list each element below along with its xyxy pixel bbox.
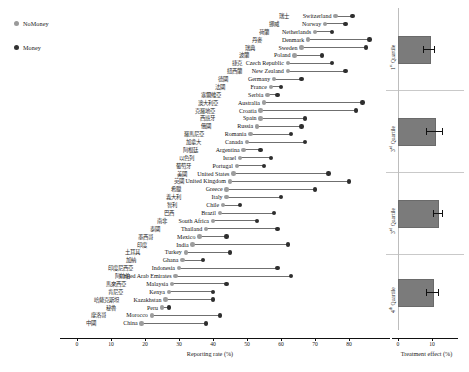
- country-label-cn: 加拿大: [186, 138, 201, 146]
- data-point-money: [326, 171, 330, 175]
- error-bar-cap: [433, 210, 434, 217]
- country-label-en: United States: [197, 170, 229, 178]
- right-x-tick-label: 0: [390, 341, 406, 347]
- error-bar: [426, 131, 442, 132]
- country-label-en: United Arab Emirates: [119, 272, 171, 280]
- country-row: 希臘Greece: [0, 185, 384, 193]
- country-label-en: Thailand: [181, 225, 202, 233]
- country-row: 智利Chile: [0, 201, 384, 209]
- data-point-money: [262, 164, 266, 168]
- country-row: 塞爾維亞Serbia: [0, 91, 384, 99]
- country-label-en: Kazakhstan: [133, 296, 161, 304]
- x-tick-label: 30: [171, 341, 187, 347]
- country-label-en: India: [176, 241, 188, 249]
- country-row: 肯尼亞Kenya: [0, 288, 384, 296]
- data-point-nomoney: [241, 148, 245, 152]
- quartile-axis-label: 4th Quartile: [388, 287, 396, 313]
- connector-line: [172, 283, 226, 284]
- country-label-cn: 巴西: [164, 209, 174, 217]
- country-label-cn: 西班牙: [200, 114, 215, 122]
- country-label-cn: 捷克: [232, 59, 242, 67]
- country-label-cn: 加納: [126, 256, 136, 264]
- error-bar: [423, 49, 434, 50]
- data-point-nomoney: [306, 37, 310, 41]
- country-label-cn: 塞爾維亞: [201, 91, 221, 99]
- country-label-en: Switzerland: [303, 12, 332, 20]
- country-row: 挪威Norway: [0, 20, 384, 28]
- country-row: 義大利Italy: [0, 193, 384, 201]
- country-row: 印度尼西亞Indonesia: [0, 264, 384, 272]
- quartile-axis-label: 1st Quartile: [388, 45, 396, 70]
- country-label-en: Turkey: [165, 248, 182, 256]
- connector-line: [169, 291, 213, 292]
- data-point-money: [201, 258, 205, 262]
- country-row: 以色列Israel: [0, 154, 384, 162]
- x-tick-label: 0: [69, 341, 85, 347]
- country-label-en: Portugal: [212, 162, 232, 170]
- country-row: 阿拉伯United Arab Emirates: [0, 272, 384, 280]
- x-tick-label: 50: [239, 341, 255, 347]
- country-label-en: Croatia: [239, 107, 257, 115]
- country-row: 德國Germany: [0, 75, 384, 83]
- country-label-en: Denmark: [282, 36, 304, 44]
- connector-line: [308, 39, 369, 40]
- country-row: 法國France: [0, 83, 384, 91]
- country-row: 克羅地亞Croatia: [0, 107, 384, 115]
- country-label-cn: 瑞士: [279, 12, 289, 20]
- data-point-nomoney: [204, 227, 208, 231]
- country-label-en: Sweden: [278, 44, 297, 52]
- data-point-money: [330, 61, 334, 65]
- country-label-cn: 智利: [167, 201, 177, 209]
- country-label-cn: 克羅地亞: [195, 107, 215, 115]
- country-label-en: New Zealand: [252, 67, 284, 75]
- data-point-money: [224, 282, 228, 286]
- country-label-en: Serbia: [248, 91, 263, 99]
- data-point-nomoney: [269, 85, 273, 89]
- data-point-nomoney: [323, 22, 327, 26]
- treatment-effect-panel: 1st Quartile3rd Quartile3rd Quartile4th …: [384, 0, 469, 372]
- data-point-money: [303, 116, 307, 120]
- country-label-en: United Kingdom: [186, 177, 227, 185]
- connector-line: [165, 299, 213, 300]
- country-label-cn: 波蘭: [239, 51, 249, 59]
- country-row: 摩洛哥Morocco: [0, 311, 384, 319]
- connector-line: [206, 228, 277, 229]
- country-row: 加拿大Canada: [0, 138, 384, 146]
- x-tick-label: 40: [205, 341, 221, 347]
- country-label-cn: 丹麥: [252, 36, 262, 44]
- country-label-en: Czech Republic: [246, 59, 284, 67]
- country-row: 阿根廷Argentina: [0, 146, 384, 154]
- country-row: 波蘭Poland: [0, 51, 384, 59]
- connector-line: [182, 260, 202, 261]
- data-point-money: [286, 242, 290, 246]
- country-label-cn: 挪威: [269, 20, 279, 28]
- data-point-nomoney: [333, 14, 337, 18]
- data-point-nomoney: [167, 290, 171, 294]
- data-point-money: [289, 274, 293, 278]
- country-label-cn: 紐西蘭: [227, 67, 242, 75]
- country-label-cn: 法國: [215, 83, 225, 91]
- country-label-en: Australia: [238, 99, 260, 107]
- country-row: 瑞士Switzerland: [0, 12, 384, 20]
- data-point-nomoney: [299, 45, 303, 49]
- connector-line: [288, 63, 332, 64]
- country-label-cn: 義大利: [166, 193, 181, 201]
- country-label-cn: 德國: [218, 75, 228, 83]
- connector-line: [199, 236, 226, 237]
- country-row: 哈薩克斯坦Kazakhstan: [0, 296, 384, 304]
- data-point-nomoney: [211, 219, 215, 223]
- quartile-axis-label: 3rd Quartile: [388, 208, 396, 234]
- data-point-nomoney: [177, 266, 181, 270]
- data-point-money: [211, 297, 215, 301]
- error-bar-cap: [442, 128, 443, 135]
- country-label-en: Italy: [212, 193, 223, 201]
- data-point-nomoney: [255, 124, 259, 128]
- country-label-cn: 哈薩克斯坦: [94, 296, 119, 304]
- country-label-en: Ghana: [163, 256, 179, 264]
- x-tick-label: 70: [307, 341, 323, 347]
- country-row: 丹麥Denmark: [0, 36, 384, 44]
- country-row: 英國United Kingdom: [0, 177, 384, 185]
- data-point-money: [211, 290, 215, 294]
- country-label-en: Brazil: [201, 209, 216, 217]
- data-point-money: [258, 148, 262, 152]
